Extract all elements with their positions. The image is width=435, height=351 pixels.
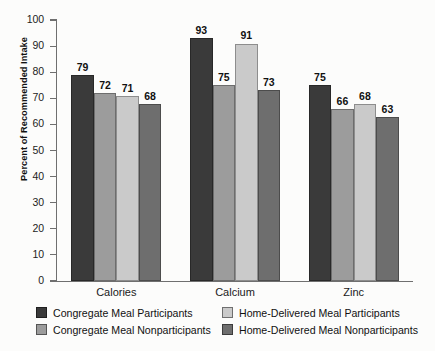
y-axis-tick-label: 20 [14, 222, 44, 234]
bar-value-label: 68 [133, 90, 167, 102]
bar [376, 117, 399, 281]
y-axis-tick [50, 228, 57, 229]
legend-swatch-icon [36, 324, 47, 335]
y-axis-tick-label: 90 [14, 39, 44, 51]
y-axis-tick-label: 70 [14, 91, 44, 103]
bar [71, 75, 94, 281]
legend-item[interactable]: Congregate Meal Participants [36, 307, 222, 319]
x-axis-line [56, 281, 413, 282]
y-axis-tick [50, 46, 57, 47]
bar-value-label: 79 [66, 61, 100, 73]
x-axis-category-label: Calories [56, 286, 176, 298]
legend-swatch-icon [36, 307, 47, 318]
y-axis-tick-label: 0 [14, 274, 44, 286]
bar-value-label: 63 [370, 103, 404, 115]
chart-legend: Congregate Meal ParticipantsHome-Deliver… [36, 304, 428, 338]
legend-label: Home-Delivered Meal Participants [239, 307, 400, 319]
y-axis-tick-label: 100 [14, 13, 44, 25]
y-axis-tick [50, 72, 57, 73]
legend-item[interactable]: Congregate Meal Nonparticipants [36, 324, 222, 336]
y-axis-tick [50, 19, 57, 20]
bar-value-label: 93 [184, 24, 218, 36]
y-axis-tick [50, 150, 57, 151]
y-axis-tick [50, 254, 57, 255]
x-axis-category-label: Calcium [175, 286, 295, 298]
y-axis-tick [50, 176, 57, 177]
y-axis-tick-label: 50 [14, 144, 44, 156]
bar [213, 85, 236, 281]
bar [331, 109, 354, 281]
legend-item[interactable]: Home-Delivered Meal Nonparticipants [222, 324, 428, 336]
plot-area: 797271689375917375666863 [57, 20, 413, 281]
y-axis-tick [50, 202, 57, 203]
bar [116, 96, 139, 281]
y-axis-tick-label: 10 [14, 248, 44, 260]
legend-swatch-icon [222, 324, 233, 335]
y-axis-tick-label: 60 [14, 117, 44, 129]
bar [354, 104, 377, 281]
bar-value-label: 73 [252, 76, 286, 88]
bar [309, 85, 332, 281]
y-axis-tick [50, 280, 57, 281]
bar [94, 93, 117, 281]
y-axis-tick-label: 30 [14, 196, 44, 208]
bar [258, 90, 281, 281]
bar-chart-figure: Percent of Recommended Intake 1009080706… [0, 0, 435, 351]
y-axis-tick [50, 124, 57, 125]
x-axis-category-label: Zinc [294, 286, 414, 298]
legend-item[interactable]: Home-Delivered Meal Participants [222, 307, 428, 319]
legend-swatch-icon [222, 307, 233, 318]
bar-value-label: 75 [303, 71, 337, 83]
bar-value-label: 68 [348, 90, 382, 102]
bar [139, 104, 162, 281]
bar-value-label: 91 [229, 29, 263, 41]
legend-label: Congregate Meal Nonparticipants [53, 324, 211, 336]
y-axis-tick-label: 80 [14, 65, 44, 77]
legend-label: Home-Delivered Meal Nonparticipants [239, 324, 418, 336]
y-axis-tick [50, 98, 57, 99]
y-axis-tick-label: 40 [14, 170, 44, 182]
legend-label: Congregate Meal Participants [53, 307, 193, 319]
